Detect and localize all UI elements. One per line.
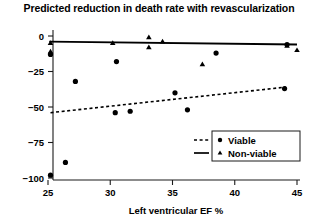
data-point-viable [213, 50, 218, 55]
y-tick-label: −100 [23, 173, 44, 184]
axis-tick-labels: 25303540450−25−50−75−100 [23, 31, 303, 199]
data-point-viable [172, 90, 177, 95]
data-point-viable [63, 160, 68, 165]
x-tick-label: 25 [43, 187, 54, 198]
scatter-plot: 25303540450−25−50−75−100 Left ventricula… [0, 0, 318, 221]
legend-label-viable[interactable]: Viable [228, 135, 256, 146]
data-point-viable [114, 59, 119, 64]
y-tick-label: 0 [39, 31, 44, 42]
data-point-non-viable [48, 49, 54, 54]
x-tick-label: 30 [105, 187, 116, 198]
data-point-non-viable [160, 39, 166, 44]
legend-marker-viable [218, 138, 222, 142]
legend-label-non-viable[interactable]: Non-viable [228, 148, 277, 159]
data-point-non-viable [146, 45, 152, 50]
data-point-non-viable [200, 62, 206, 67]
data-point-non-viable [294, 47, 300, 52]
x-axis-title: Left ventricular EF % [129, 205, 224, 216]
y-tick-label: −25 [28, 66, 45, 77]
data-point-viable [128, 109, 133, 114]
data-point-viable [282, 86, 287, 91]
fit-line-non-viable [49, 42, 297, 45]
data-point-viable [113, 110, 118, 115]
data-point-viable [48, 173, 53, 178]
data-point-viable [73, 79, 78, 84]
data-point-non-viable [146, 35, 152, 40]
y-tick-label: −50 [28, 102, 44, 113]
y-tick-label: −75 [28, 137, 45, 148]
chart-figure: Predicted reduction in death rate with r… [0, 0, 318, 221]
data-point-viable [185, 107, 190, 112]
regression-lines [49, 42, 297, 113]
x-tick-label: 45 [292, 187, 303, 198]
x-tick-label: 35 [167, 187, 178, 198]
fit-line-viable [50, 87, 285, 113]
chart-legend[interactable]: ViableNon-viable [194, 131, 300, 161]
x-tick-label: 40 [229, 187, 240, 198]
axis-ticks [48, 36, 297, 185]
